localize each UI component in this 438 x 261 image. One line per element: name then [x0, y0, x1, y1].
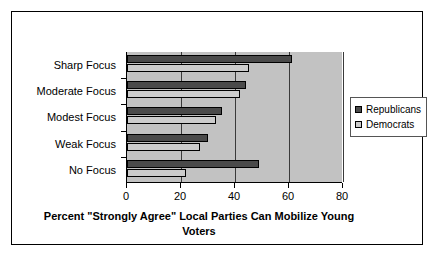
legend-swatch-icon: [355, 121, 362, 128]
bar-republicans-moderate-focus: [127, 81, 246, 89]
bar-democrats-modest-focus: [127, 116, 216, 124]
bar-republicans-modest-focus: [127, 107, 222, 115]
bar-republicans-sharp-focus: [127, 55, 292, 63]
bar-democrats-no-focus: [127, 169, 186, 177]
x-axis-tick-label-20: 20: [160, 190, 200, 202]
bar-democrats-sharp-focus: [127, 64, 249, 72]
x-axis-tick-label-40: 40: [214, 190, 254, 202]
x-axis-tick-0: [126, 183, 127, 188]
y-axis-label-modest-focus: Modest Focus: [47, 104, 116, 130]
y-axis-tick: [121, 131, 126, 132]
bar-democrats-moderate-focus: [127, 90, 240, 98]
bar-group: [127, 104, 342, 130]
y-axis-label-sharp-focus: Sharp Focus: [54, 52, 116, 78]
bar-group: [127, 131, 342, 157]
legend-swatch-icon: [355, 106, 362, 113]
y-axis-label-weak-focus: Weak Focus: [55, 131, 116, 157]
y-axis-tick: [121, 157, 126, 158]
x-axis-title: Percent "Strongly Agree" Local Parties C…: [34, 209, 364, 239]
bar-group: [127, 157, 342, 183]
y-axis-tick: [121, 78, 126, 79]
bar-group: [127, 52, 342, 78]
bar-group: [127, 78, 342, 104]
y-axis-label-no-focus: No Focus: [69, 157, 116, 183]
gridline-80: [343, 52, 344, 182]
x-axis-tick-label-60: 60: [268, 190, 308, 202]
bar-democrats-weak-focus: [127, 143, 200, 151]
x-axis-tick-label-0: 0: [106, 190, 146, 202]
chart-figure: Sharp FocusModerate FocusModest FocusWea…: [11, 11, 423, 245]
chart-legend: RepublicansDemocrats: [350, 97, 427, 137]
x-axis-tick-40: [234, 183, 235, 188]
bar-republicans-weak-focus: [127, 134, 208, 142]
legend-item-label: Democrats: [366, 119, 414, 130]
legend-item-republicans: Republicans: [355, 102, 421, 117]
plot-area: [126, 52, 342, 183]
x-axis-tick-label-80: 80: [322, 190, 362, 202]
y-axis-label-moderate-focus: Moderate Focus: [37, 78, 116, 104]
y-axis-labels: Sharp FocusModerate FocusModest FocusWea…: [26, 52, 122, 183]
x-axis-title-line2: Voters: [34, 224, 364, 239]
bar-republicans-no-focus: [127, 160, 259, 168]
y-axis-tick: [121, 104, 126, 105]
x-axis-title-line1: Percent "Strongly Agree" Local Parties C…: [34, 209, 364, 224]
x-axis-tick-80: [342, 183, 343, 188]
x-axis-tick-60: [288, 183, 289, 188]
legend-item-democrats: Democrats: [355, 117, 421, 132]
x-axis-tick-20: [180, 183, 181, 188]
legend-item-label: Republicans: [366, 104, 421, 115]
